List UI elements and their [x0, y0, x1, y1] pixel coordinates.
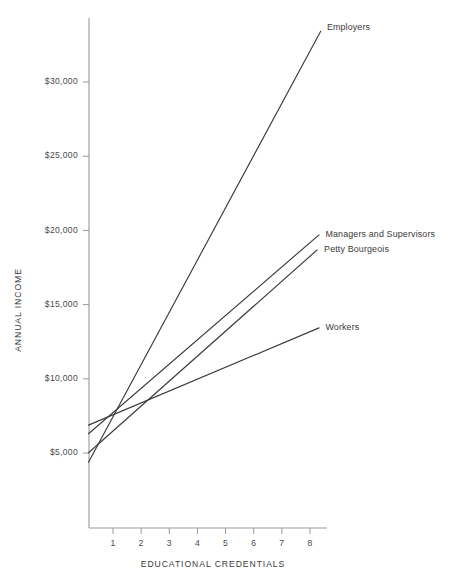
series-line-petty-bourgeois — [89, 250, 318, 453]
series-lines-group — [89, 31, 321, 462]
x-axis-tick-label: 5 — [223, 538, 228, 548]
x-axis-tick-label: 6 — [251, 538, 256, 548]
x-axis-tick-label: 7 — [279, 538, 284, 548]
series-label-workers: Workers — [325, 322, 359, 332]
series-line-workers — [89, 328, 319, 425]
y-axis-tick-label: $15,000 — [45, 299, 78, 309]
income-credentials-line-chart: $5,000$10,000$15,000$20,000$25,000$30,00… — [0, 0, 459, 588]
x-axis-tick-label: 1 — [110, 538, 115, 548]
x-axis-tick-label: 4 — [195, 538, 200, 548]
x-axis-title: EDUCATIONAL CREDENTIALS — [141, 559, 286, 569]
chart-canvas: $5,000$10,000$15,000$20,000$25,000$30,00… — [0, 0, 459, 588]
y-axis-title: ANNUAL INCOME — [13, 268, 23, 352]
series-label-employers: Employers — [327, 22, 371, 32]
series-line-managers-and-supervisors — [89, 235, 319, 434]
x-axis-tick-label: 3 — [167, 538, 172, 548]
series-labels-group: EmployersManagers and SupervisorsPetty B… — [324, 22, 435, 332]
series-line-employers — [89, 31, 321, 462]
y-axis-ticks: $5,000$10,000$15,000$20,000$25,000$30,00… — [45, 76, 89, 457]
y-axis-tick-label: $5,000 — [50, 447, 78, 457]
y-axis-tick-label: $10,000 — [45, 373, 78, 383]
x-axis-tick-label: 8 — [307, 538, 312, 548]
x-axis-ticks: 12345678 — [110, 528, 312, 548]
y-axis-tick-label: $25,000 — [45, 150, 78, 160]
x-axis-tick-label: 2 — [139, 538, 144, 548]
y-axis-tick-label: $20,000 — [45, 225, 78, 235]
y-axis-tick-label: $30,000 — [45, 76, 78, 86]
series-label-managers-and-supervisors: Managers and Supervisors — [325, 229, 435, 239]
series-label-petty-bourgeois: Petty Bourgeois — [324, 244, 389, 254]
